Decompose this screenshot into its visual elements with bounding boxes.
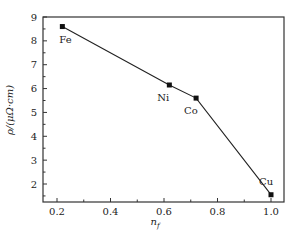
y-tick-label: 9 bbox=[31, 12, 37, 23]
series-line bbox=[62, 27, 271, 195]
x-tick-label: 0.8 bbox=[210, 206, 226, 217]
y-axis-label: ρ/(μΩ·cm) bbox=[4, 85, 15, 136]
plot-border bbox=[43, 17, 284, 202]
y-tick-label: 8 bbox=[31, 35, 37, 46]
x-tick-label: 0.2 bbox=[49, 206, 65, 217]
x-tick-label: 1.0 bbox=[263, 206, 279, 217]
y-tick-label: 4 bbox=[31, 131, 37, 142]
data-point-label: Ni bbox=[157, 92, 169, 103]
data-point-marker bbox=[60, 24, 65, 29]
y-tick-label: 3 bbox=[31, 155, 37, 166]
resistivity-chart: 0.20.40.60.81.023456789 FeNiCoCu nf ρ/(μ… bbox=[0, 0, 295, 239]
x-tick-label: 0.6 bbox=[156, 206, 172, 217]
y-tick-label: 7 bbox=[31, 59, 37, 70]
y-tick-label: 5 bbox=[31, 107, 37, 118]
x-tick-label: 0.4 bbox=[103, 206, 119, 217]
x-axis-label: nf bbox=[150, 216, 160, 230]
axis-ticks bbox=[43, 17, 271, 202]
plot-frame bbox=[43, 17, 284, 202]
y-tick-label: 2 bbox=[31, 179, 37, 190]
data-point-label: Co bbox=[184, 105, 198, 116]
y-tick-label: 6 bbox=[31, 83, 37, 94]
data-point-marker bbox=[167, 82, 172, 87]
data-point-label: Fe bbox=[59, 34, 71, 45]
data-point-label: Cu bbox=[259, 176, 274, 187]
data-point-marker bbox=[194, 96, 199, 101]
data-series: FeNiCoCu bbox=[59, 24, 273, 197]
data-point-marker bbox=[269, 192, 274, 197]
